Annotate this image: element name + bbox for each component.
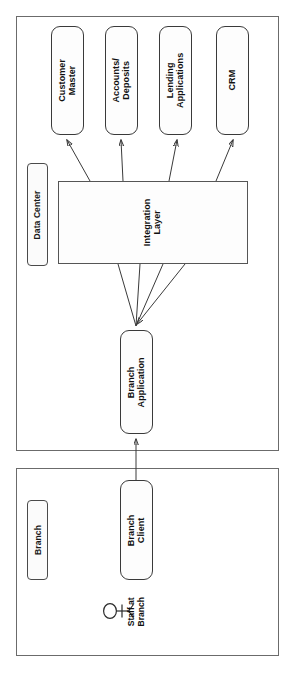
node-branch-client-label: Branch Client <box>126 514 147 546</box>
actor-label-staff-at-branch: Staff at Branch <box>126 583 148 641</box>
container-label-branch: Branch <box>27 500 48 580</box>
node-customer-master[interactable]: Customer Master <box>51 26 84 135</box>
node-branch-client[interactable]: Branch Client <box>120 480 153 580</box>
container-label-data-center: Data Center <box>27 163 48 266</box>
node-integration-layer-label: Integration Layer <box>143 199 164 247</box>
node-branch-application-label: Branch Application <box>126 357 147 407</box>
container-label-branch-text: Branch <box>33 525 43 555</box>
diagram-canvas: Data Center Branch <box>0 0 295 673</box>
node-crm[interactable]: CRM <box>216 26 249 135</box>
node-crm-label: CRM <box>227 70 237 91</box>
node-customer-master-label: Customer Master <box>57 59 78 102</box>
node-branch-application[interactable]: Branch Application <box>120 330 153 434</box>
node-lending-applications-label: Lending Applications <box>165 53 186 108</box>
node-accounts-deposits[interactable]: Accounts/ Deposits <box>105 26 138 135</box>
container-label-data-center-text: Data Center <box>33 190 43 239</box>
node-accounts-deposits-label: Accounts/ Deposits <box>111 58 132 102</box>
node-lending-applications[interactable]: Lending Applications <box>159 26 192 135</box>
node-integration-layer[interactable]: Integration Layer <box>58 181 248 264</box>
actor-label-staff-at-branch-text: Staff at Branch <box>127 597 147 626</box>
